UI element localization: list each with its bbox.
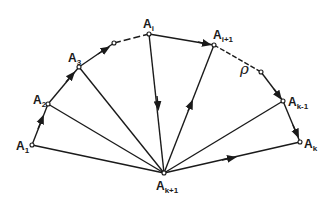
label-ak1: Ak-1 <box>288 95 309 111</box>
vertex-p2 <box>259 70 263 74</box>
arrow-ak1-ak <box>293 125 297 134</box>
arrow-ai-ai1 <box>198 42 207 44</box>
polygon-fan-diagram: A1 A2 A3 Ai Ai+1 Ak-1 Ak Ak+1 ρ <box>0 0 330 204</box>
spoke-ak <box>164 142 300 173</box>
arrow-a1-a2 <box>38 119 42 129</box>
vertex-ak1 <box>281 99 285 103</box>
edge-p2-ak1 <box>261 72 283 101</box>
label-ak: Ak <box>304 137 318 153</box>
edge-ai1-p2-dashed <box>214 45 261 72</box>
edge-p1-ai-dashed <box>114 34 149 43</box>
label-ai: Ai <box>143 17 154 33</box>
arrow-a3-p1 <box>98 49 106 54</box>
spoke-a2 <box>48 104 164 173</box>
vertex-a1 <box>30 143 34 147</box>
arrow-p2-ak1 <box>274 89 279 96</box>
edge-a2-a3 <box>48 67 79 104</box>
vertex-ai <box>147 32 151 36</box>
label-ak2: Ak+1 <box>156 179 179 195</box>
label-a3: A3 <box>68 51 82 67</box>
arrow-spoke-ai <box>157 96 158 106</box>
vertex-ak2 <box>162 171 166 175</box>
spoke-ai <box>149 34 164 173</box>
label-a2: A2 <box>33 93 47 109</box>
arrow-a2-a3 <box>66 75 72 82</box>
vertex-ai1 <box>212 43 216 47</box>
vertex-p1 <box>112 41 116 45</box>
arrow-spoke-ai1 <box>188 104 191 111</box>
vertex-labels: A1 A2 A3 Ai Ai+1 Ak-1 Ak Ak+1 ρ <box>16 17 318 195</box>
label-rho: ρ <box>239 60 249 78</box>
vertex-ak <box>298 140 302 144</box>
arrow-spoke-ak <box>222 158 232 160</box>
label-a1: A1 <box>16 139 30 155</box>
spoke-ak1 <box>164 101 283 173</box>
vertex-a2 <box>46 102 50 106</box>
edge-a3-p1 <box>79 43 114 67</box>
label-ai1: Ai+1 <box>213 28 234 44</box>
